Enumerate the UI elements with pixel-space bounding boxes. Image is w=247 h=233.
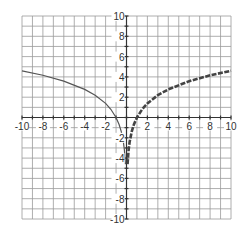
x-tick-label: 10 <box>225 121 237 132</box>
y-tick-label: -6 <box>116 173 125 184</box>
y-tick-label: 2 <box>119 92 125 103</box>
x-tick-label: -10 <box>15 121 30 132</box>
y-tick-label: 8 <box>119 31 125 42</box>
x-tick-label: 8 <box>207 121 213 132</box>
x-tick-label: -4 <box>80 121 89 132</box>
x-tick-label: -2 <box>101 121 110 132</box>
y-tick-label: 6 <box>119 52 125 63</box>
x-tick-label: 2 <box>145 121 151 132</box>
chart: -10-8-6-4-2246810108642-2-4-6-8-10 <box>0 0 247 233</box>
y-tick-label: -4 <box>116 153 125 164</box>
y-tick-label: -2 <box>116 133 125 144</box>
y-tick-label: 10 <box>113 11 125 22</box>
x-tick-label: 4 <box>166 121 172 132</box>
y-tick-label: 4 <box>119 72 125 83</box>
x-tick-label: -6 <box>59 121 68 132</box>
x-tick-label: 6 <box>186 121 192 132</box>
y-tick-label: -10 <box>110 214 125 225</box>
x-tick-label: -8 <box>38 121 47 132</box>
y-tick-label: -8 <box>116 194 125 205</box>
